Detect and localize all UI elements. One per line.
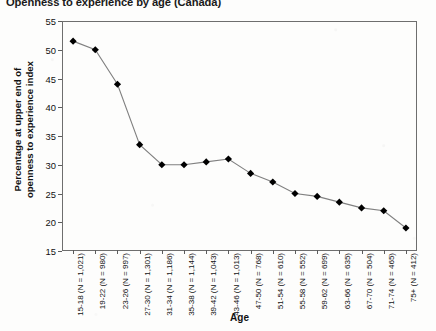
data-point-marker bbox=[247, 170, 254, 177]
x-axis-tick-mark bbox=[339, 250, 340, 254]
data-point-marker bbox=[92, 46, 99, 53]
x-axis-tick-mark bbox=[295, 250, 296, 254]
data-point-marker bbox=[336, 199, 343, 206]
data-point-marker bbox=[358, 204, 365, 211]
y-axis-title: Percentage at upper end of openness to e… bbox=[12, 14, 35, 246]
x-axis-tick-label: 19-22 (N = 980) bbox=[98, 253, 107, 309]
x-axis-tick-label: 31-34 (N = 1,186) bbox=[165, 253, 174, 316]
x-axis-tick-mark bbox=[317, 250, 318, 254]
series-line bbox=[73, 41, 406, 228]
chart-title: Openness to experience by age (Canada) bbox=[6, 0, 221, 8]
data-point-marker bbox=[203, 158, 210, 165]
x-axis-tick-label: 75+ (N = 412) bbox=[409, 253, 418, 302]
data-point-marker bbox=[180, 161, 187, 168]
y-axis-title-line-2: openness to experience index bbox=[24, 61, 35, 198]
x-axis-tick-mark bbox=[162, 250, 163, 254]
x-axis-tick-mark bbox=[228, 250, 229, 254]
data-point-marker bbox=[291, 190, 298, 197]
y-axis-tick-mark bbox=[58, 251, 62, 252]
data-point-marker bbox=[69, 38, 76, 45]
x-axis-tick-label: 71-74 (N = 465) bbox=[387, 253, 396, 309]
data-point-marker bbox=[114, 81, 121, 88]
x-axis-tick-label: 43-46 (N = 1,013) bbox=[232, 253, 241, 316]
x-axis-tick-mark bbox=[184, 250, 185, 254]
x-axis-tick-labels: 15-18 (N = 1,021)19-22 (N = 980)23-26 (N… bbox=[62, 253, 417, 313]
y-axis-tick-label: 15 bbox=[30, 246, 60, 257]
x-axis-tick-label: 35-38 (N = 1,144) bbox=[187, 253, 196, 316]
data-series-openness bbox=[62, 21, 417, 251]
x-axis-tick-mark bbox=[140, 250, 141, 254]
x-axis-tick-mark bbox=[406, 250, 407, 254]
x-axis-tick-label: 27-30 (N = 1,301) bbox=[143, 253, 152, 316]
x-axis-tick-mark bbox=[273, 250, 274, 254]
x-axis-tick-label: 67-70 (N = 504) bbox=[365, 253, 374, 309]
x-axis-tick-mark bbox=[384, 250, 385, 254]
x-axis-tick-mark bbox=[251, 250, 252, 254]
x-axis-tick-label: 55-58 (N = 552) bbox=[298, 253, 307, 309]
y-axis-title-line-1: Percentage at upper end of bbox=[12, 68, 23, 192]
data-point-marker bbox=[225, 155, 232, 162]
x-axis-tick-mark bbox=[95, 250, 96, 254]
x-axis-title: Age bbox=[62, 312, 417, 323]
x-axis-tick-label: 47-50 (N = 768) bbox=[254, 253, 263, 309]
x-axis-tick-label: 23-26 (N = 997) bbox=[121, 253, 130, 309]
x-axis-tick-mark bbox=[362, 250, 363, 254]
x-axis-tick-label: 39-42 (N = 1,043) bbox=[209, 253, 218, 316]
data-point-marker bbox=[269, 178, 276, 185]
x-axis-tick-label: 15-18 (N = 1,021) bbox=[76, 253, 85, 316]
x-axis-tick-mark bbox=[117, 250, 118, 254]
data-point-marker bbox=[314, 193, 321, 200]
x-axis-tick-label: 59-62 (N = 699) bbox=[320, 253, 329, 309]
x-axis-tick-mark bbox=[206, 250, 207, 254]
x-axis-tick-mark bbox=[73, 250, 74, 254]
x-axis-tick-label: 63-66 (N = 635) bbox=[343, 253, 352, 309]
x-axis-tick-label: 51-54 (N = 610) bbox=[276, 253, 285, 309]
